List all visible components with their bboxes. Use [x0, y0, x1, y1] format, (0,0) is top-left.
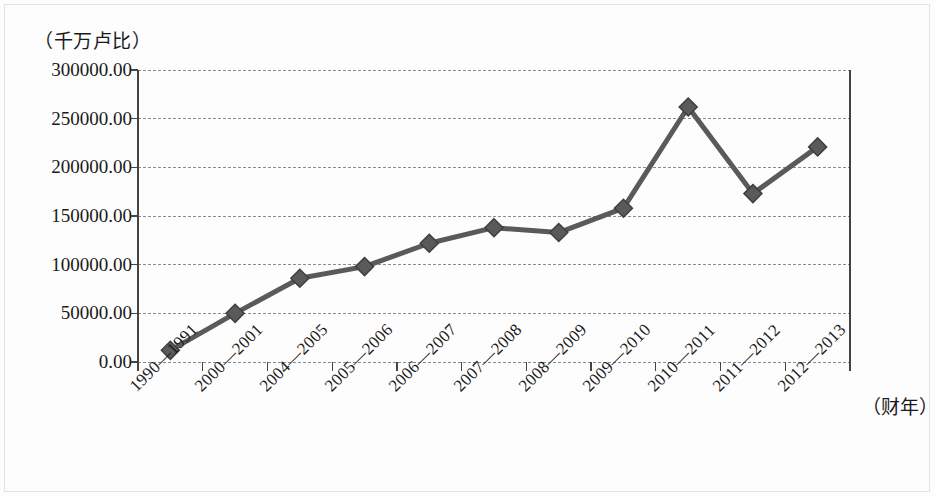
line-chart-plot [0, 0, 934, 496]
x-axis-ticks [138, 362, 850, 371]
data-point-marker [550, 224, 568, 242]
data-point-marker [356, 258, 374, 276]
data-point-marker [420, 234, 438, 252]
chart-figure: （千万卢比） （财年） 300000.00250000.00200000.001… [0, 0, 934, 496]
data-point-markers [161, 98, 826, 359]
data-point-marker [291, 269, 309, 287]
data-point-marker [485, 219, 503, 237]
